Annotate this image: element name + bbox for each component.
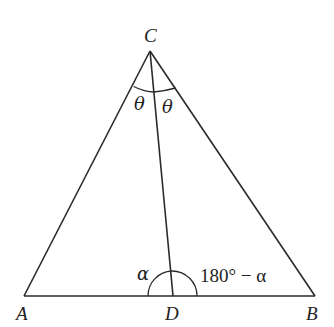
angle-arc-alpha <box>148 271 172 296</box>
vertex-label-c: C <box>144 25 157 46</box>
angle-label-alpha: α <box>137 263 149 284</box>
angle-label-theta-right: θ <box>162 96 173 117</box>
angle-arc-theta-right <box>154 88 176 92</box>
bisector-cd <box>150 51 173 296</box>
angle-label-supplement: 180° − α <box>200 265 266 286</box>
side-ac <box>24 51 150 296</box>
vertex-label-a: A <box>14 303 28 324</box>
angle-label-theta-left: θ <box>134 93 145 114</box>
vertex-label-d: D <box>164 303 179 324</box>
angle-arc-theta-left <box>134 87 154 93</box>
triangle-diagram: C A B D θ θ α 180° − α <box>0 0 334 327</box>
vertex-label-b: B <box>306 303 318 324</box>
angle-arc-supplement <box>172 271 197 296</box>
